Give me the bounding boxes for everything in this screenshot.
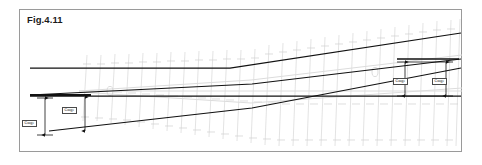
gauge-label-right-outer: Gauge — [432, 78, 447, 85]
gauge-label-left-outer: Gauge — [22, 120, 37, 127]
figure-container: Fig.4.11 — [0, 0, 482, 165]
gauge-dimension-lines — [37, 62, 453, 135]
gauge-label-right-inner: Gauge — [393, 78, 408, 85]
gauge-label-left-inner: Gauge — [62, 107, 77, 114]
centerline-diverging — [79, 55, 462, 91]
